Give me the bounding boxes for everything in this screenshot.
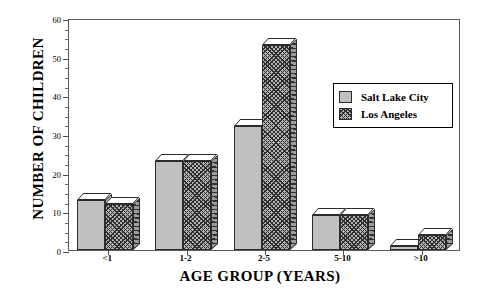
bar — [155, 161, 183, 250]
y-axis-tick-mark — [63, 97, 69, 98]
y-axis-tick-label: 20 — [53, 170, 62, 180]
y-axis-minor-tick — [65, 49, 69, 50]
bar — [105, 204, 133, 250]
x-axis-tick-label: 1-2 — [180, 253, 192, 263]
x-axis-tick-label: 2-5 — [258, 253, 270, 263]
x-axis-tick-label: >10 — [414, 253, 428, 263]
bar — [390, 246, 418, 250]
y-axis-minor-tick — [65, 223, 69, 224]
bar-side-face — [368, 209, 375, 250]
bar-side-face — [290, 39, 297, 250]
x-axis-tick-label: <1 — [102, 253, 112, 263]
y-axis-minor-tick — [65, 204, 69, 205]
y-axis-tick-label: 50 — [53, 54, 62, 64]
bar-front-face — [183, 161, 211, 250]
y-axis-tick-mark — [63, 252, 69, 253]
plot-area: 0102030405060 — [68, 19, 460, 251]
y-axis-minor-tick — [65, 233, 69, 234]
y-axis-tick-mark — [63, 175, 69, 176]
y-axis-tick-mark — [63, 20, 69, 21]
y-axis-minor-tick — [65, 107, 69, 108]
bar — [234, 126, 262, 250]
legend-swatch-los-angeles — [339, 108, 352, 120]
y-axis-tick-label: 30 — [53, 131, 62, 141]
y-axis-minor-tick — [65, 30, 69, 31]
y-axis-tick-mark — [63, 213, 69, 214]
x-axis-tick-label: 5-10 — [334, 253, 351, 263]
y-axis-title: NUMBER OF CHILDREN — [30, 9, 47, 249]
legend-label-los-angeles: Los Angeles — [361, 108, 417, 120]
y-axis-minor-tick — [65, 126, 69, 127]
y-axis-tick-mark — [63, 59, 69, 60]
y-axis-tick-label: 40 — [53, 92, 62, 102]
bar-front-face — [390, 246, 418, 250]
x-axis-title: AGE GROUP (YEARS) — [60, 268, 460, 285]
legend-item: Salt Lake City — [339, 88, 446, 105]
y-axis-tick-label: 0 — [57, 247, 61, 257]
bar — [262, 45, 290, 250]
y-axis-minor-tick — [65, 242, 69, 243]
y-axis-minor-tick — [65, 78, 69, 79]
bar-chart-figure: NUMBER OF CHILDREN 0102030405060 <11-22-… — [0, 0, 480, 295]
bar-side-face — [133, 197, 140, 250]
bar-front-face — [418, 235, 446, 250]
bar — [183, 161, 211, 250]
y-axis-minor-tick — [65, 165, 69, 166]
y-axis-minor-tick — [65, 39, 69, 40]
bar-front-face — [340, 215, 368, 250]
bar-front-face — [312, 215, 340, 250]
bar-front-face — [155, 161, 183, 250]
legend-label-salt-lake-city: Salt Lake City — [361, 91, 429, 103]
y-axis-minor-tick — [65, 88, 69, 89]
y-axis-minor-tick — [65, 146, 69, 147]
y-axis-tick-label: 10 — [53, 208, 62, 218]
y-axis-minor-tick — [65, 194, 69, 195]
y-axis-tick-mark — [63, 136, 69, 137]
bar-side-face — [211, 155, 218, 250]
bar — [312, 215, 340, 250]
y-axis-minor-tick — [65, 68, 69, 69]
legend-item: Los Angeles — [339, 105, 446, 122]
y-axis-minor-tick — [65, 184, 69, 185]
bar — [340, 215, 368, 250]
y-axis-minor-tick — [65, 117, 69, 118]
bar-front-face — [105, 204, 133, 250]
legend: Salt Lake City Los Angeles — [333, 83, 453, 128]
y-axis-minor-tick — [65, 155, 69, 156]
bar — [77, 200, 105, 250]
y-axis-tick-label: 60 — [53, 15, 62, 25]
legend-swatch-salt-lake-city — [339, 91, 352, 103]
bar — [418, 235, 446, 250]
bar-front-face — [77, 200, 105, 250]
bar-front-face — [262, 45, 290, 250]
bar-front-face — [234, 126, 262, 250]
